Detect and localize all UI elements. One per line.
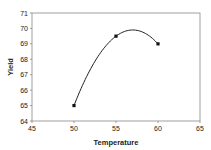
data-point-marker	[114, 35, 117, 38]
y-tick-label: 69	[20, 40, 28, 47]
x-tick-label: 50	[70, 125, 78, 132]
y-tick-label: 71	[20, 10, 28, 17]
data-point-marker	[156, 42, 159, 45]
plot-area	[32, 13, 200, 121]
y-tick-label: 68	[20, 56, 28, 63]
y-axis-ticks: 6465666768697071	[20, 10, 32, 125]
y-tick-label: 66	[20, 87, 28, 94]
x-tick-label: 60	[154, 125, 162, 132]
x-axis-ticks: 4550556065	[28, 121, 204, 132]
x-axis-label: Temperature	[94, 138, 139, 147]
x-tick-label: 65	[196, 125, 204, 132]
y-tick-label: 70	[20, 25, 28, 32]
x-tick-label: 45	[28, 125, 36, 132]
y-tick-label: 67	[20, 71, 28, 78]
x-tick-label: 55	[112, 125, 120, 132]
y-tick-label: 64	[20, 118, 28, 125]
y-axis-label: Yield	[6, 58, 15, 76]
y-tick-label: 65	[20, 102, 28, 109]
data-point-marker	[72, 104, 75, 107]
chart: 6465666768697071 4550556065 Temperature …	[0, 0, 211, 150]
